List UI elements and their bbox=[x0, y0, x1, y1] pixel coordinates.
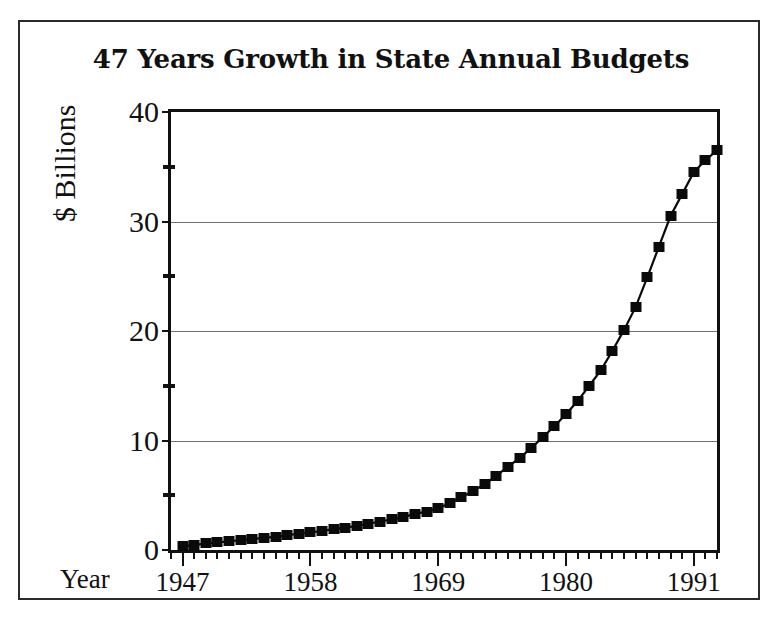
plot-area: 010203040 19471958196919801991 bbox=[168, 109, 720, 553]
y-tick-label-20: 20 bbox=[129, 314, 159, 348]
data-point-1988 bbox=[653, 242, 664, 252]
x-tick-minor-1976 bbox=[519, 550, 521, 559]
y-tick-minor-5 bbox=[163, 493, 175, 497]
y-tick-minor-35 bbox=[163, 165, 175, 169]
x-tick-minor-1993 bbox=[716, 550, 718, 559]
x-tick-minor-1963 bbox=[367, 550, 369, 559]
y-tick-40 bbox=[162, 111, 171, 113]
data-point-1993 bbox=[712, 145, 723, 155]
x-tick-label-1958: 1958 bbox=[283, 567, 337, 598]
y-tick-minor-25 bbox=[163, 274, 175, 278]
x-tick-minor-1970 bbox=[449, 550, 451, 559]
x-tick-minor-1955 bbox=[275, 550, 277, 559]
x-tick-minor-1983 bbox=[600, 550, 602, 559]
data-point-1963 bbox=[363, 519, 374, 529]
data-point-1970 bbox=[444, 498, 455, 508]
x-tick-1947 bbox=[182, 550, 184, 566]
data-point-1951 bbox=[224, 536, 235, 546]
x-tick-minor-1949 bbox=[205, 550, 207, 559]
x-tick-minor-1951 bbox=[228, 550, 230, 559]
data-point-1949 bbox=[200, 538, 211, 548]
data-point-1968 bbox=[421, 507, 432, 517]
x-tick-minor-1953 bbox=[251, 550, 253, 559]
plot-inner bbox=[171, 112, 717, 550]
y-axis-title: $ Billions bbox=[48, 104, 82, 222]
x-tick-label-1969: 1969 bbox=[411, 567, 465, 598]
data-point-1948 bbox=[189, 540, 200, 550]
x-tick-minor-1959 bbox=[321, 550, 323, 559]
data-point-1983 bbox=[595, 365, 606, 375]
x-tick-minor-1961 bbox=[344, 550, 346, 559]
x-tick-minor-1984 bbox=[611, 550, 613, 559]
y-tick-label-40: 40 bbox=[129, 95, 159, 129]
x-tick-minor-1964 bbox=[379, 550, 381, 559]
data-point-1976 bbox=[514, 453, 525, 463]
data-point-1962 bbox=[351, 521, 362, 531]
x-tick-minor-1971 bbox=[460, 550, 462, 559]
x-tick-minor-1973 bbox=[484, 550, 486, 559]
x-tick-minor-1962 bbox=[356, 550, 358, 559]
x-tick-minor-1992 bbox=[704, 550, 706, 559]
data-point-1967 bbox=[409, 509, 420, 519]
x-axis-title: Year bbox=[60, 564, 110, 595]
x-tick-minor-1990 bbox=[681, 550, 683, 559]
data-point-1989 bbox=[665, 211, 676, 221]
y-tick-label-30: 30 bbox=[129, 205, 159, 239]
data-point-1964 bbox=[375, 517, 386, 527]
data-point-1979 bbox=[549, 421, 560, 431]
series-line bbox=[171, 112, 717, 550]
x-tick-minor-1965 bbox=[391, 550, 393, 559]
x-tick-minor-1979 bbox=[553, 550, 555, 559]
x-tick-minor-1981 bbox=[577, 550, 579, 559]
data-point-1959 bbox=[317, 526, 328, 536]
x-tick-minor-1974 bbox=[495, 550, 497, 559]
x-tick-1958 bbox=[309, 550, 311, 566]
data-point-1957 bbox=[293, 529, 304, 539]
y-tick-30 bbox=[162, 221, 171, 223]
data-point-1950 bbox=[212, 537, 223, 547]
data-point-1958 bbox=[305, 527, 316, 537]
x-tick-1991 bbox=[693, 550, 695, 566]
data-point-1975 bbox=[502, 462, 513, 472]
x-tick-minor-1952 bbox=[240, 550, 242, 559]
data-point-1982 bbox=[584, 381, 595, 391]
data-point-1990 bbox=[677, 189, 688, 199]
data-point-1980 bbox=[560, 409, 571, 419]
data-point-1992 bbox=[700, 155, 711, 165]
x-tick-label-1947: 1947 bbox=[156, 567, 210, 598]
y-tick-20 bbox=[162, 330, 171, 332]
x-tick-1980 bbox=[565, 550, 567, 566]
data-point-1956 bbox=[282, 530, 293, 540]
x-tick-minor-1968 bbox=[426, 550, 428, 559]
data-point-1984 bbox=[607, 346, 618, 356]
data-point-1953 bbox=[247, 534, 258, 544]
y-tick-label-10: 10 bbox=[129, 424, 159, 458]
data-point-1960 bbox=[328, 524, 339, 534]
x-tick-minor-1960 bbox=[333, 550, 335, 559]
x-tick-minor-1988 bbox=[658, 550, 660, 559]
x-tick-1969 bbox=[437, 550, 439, 566]
figure-frame: 47 Years Growth in State Annual Budgets … bbox=[18, 20, 760, 600]
data-point-1974 bbox=[491, 471, 502, 481]
x-tick-minor-1967 bbox=[414, 550, 416, 559]
x-tick-minor-1948 bbox=[193, 550, 195, 559]
chart-title: 47 Years Growth in State Annual Budgets bbox=[20, 44, 762, 74]
data-point-1986 bbox=[630, 302, 641, 312]
x-tick-minor-1954 bbox=[263, 550, 265, 559]
data-point-1961 bbox=[340, 523, 351, 533]
x-tick-minor-1950 bbox=[216, 550, 218, 559]
x-tick-minor-1957 bbox=[298, 550, 300, 559]
data-point-1987 bbox=[642, 272, 653, 282]
x-tick-label-1980: 1980 bbox=[539, 567, 593, 598]
x-tick-minor-1972 bbox=[472, 550, 474, 559]
data-point-1972 bbox=[468, 486, 479, 496]
x-tick-minor-1956 bbox=[286, 550, 288, 559]
data-point-1965 bbox=[386, 514, 397, 524]
x-tick-label-1991: 1991 bbox=[667, 567, 721, 598]
data-point-1973 bbox=[479, 479, 490, 489]
data-point-1954 bbox=[258, 533, 269, 543]
x-tick-minor-1978 bbox=[542, 550, 544, 559]
x-tick-minor-1977 bbox=[530, 550, 532, 559]
data-point-1991 bbox=[688, 167, 699, 177]
data-point-1985 bbox=[619, 325, 630, 335]
